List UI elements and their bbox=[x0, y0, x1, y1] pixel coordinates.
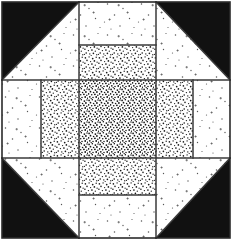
quilt-patch-center-stipple bbox=[79, 80, 156, 158]
quilt-patch-bottom-center-stipple bbox=[79, 158, 156, 195]
quilt-block-canvas bbox=[0, 0, 234, 243]
quilt-patch-mid-left-stipple bbox=[41, 80, 79, 158]
quilt-block-figure: Quilt Block Pattern bbox=[0, 0, 234, 243]
quilt-patch-mid-right-white bbox=[193, 80, 230, 158]
quilt-patch-top-center-white bbox=[79, 2, 156, 45]
quilt-patch-top-center-stipple bbox=[79, 45, 156, 80]
quilt-patch-mid-left-white bbox=[2, 80, 41, 158]
quilt-patch-bottom-center-white bbox=[79, 195, 156, 238]
quilt-patch-mid-right-stipple bbox=[156, 80, 193, 158]
patch-layer bbox=[2, 2, 230, 238]
